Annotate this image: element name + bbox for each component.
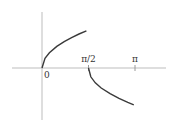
x-tick-label: π/2	[81, 54, 96, 64]
x-tick-label: π	[132, 54, 138, 64]
series-branch-2	[89, 68, 134, 105]
x-tick-label: 0	[44, 70, 50, 80]
chart: 0π/2π	[0, 0, 175, 125]
series-branch-1	[42, 31, 86, 68]
